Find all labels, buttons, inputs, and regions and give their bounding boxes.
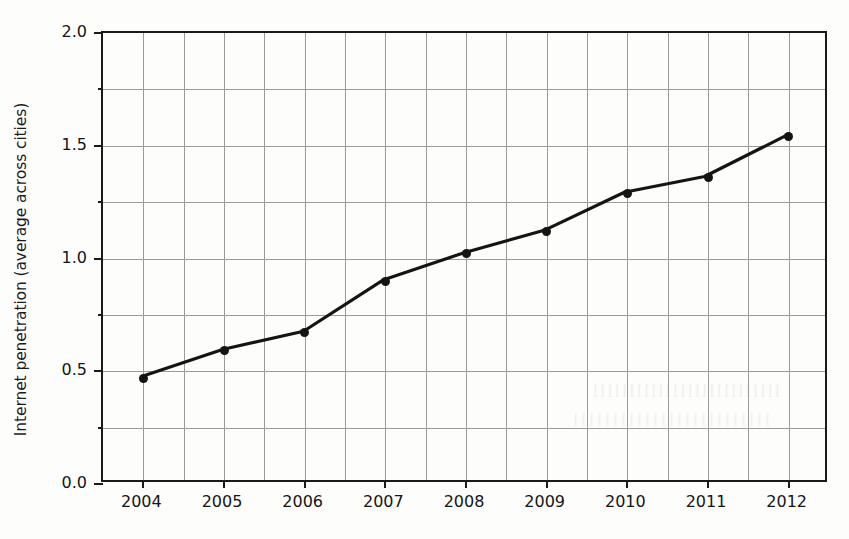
- x-tick-label: 2007: [348, 492, 418, 511]
- data-point-marker: [623, 189, 632, 198]
- y-tick-mark: [94, 145, 103, 147]
- y-axis-title: Internet penetration (average across cit…: [0, 0, 46, 539]
- y-axis-title-label: Internet penetration (average across cit…: [12, 103, 34, 436]
- data-point-marker: [462, 249, 471, 258]
- y-tick-mark: [94, 32, 103, 34]
- x-tick-label: 2009: [510, 492, 580, 511]
- x-tick-label: 2010: [590, 492, 660, 511]
- x-tick-label: 2005: [187, 492, 257, 511]
- y-tick-mark: [94, 258, 103, 260]
- y-tick-label: 0.5: [41, 360, 87, 379]
- y-tick-label: 0.0: [41, 473, 87, 492]
- y-tick-label: 2.0: [41, 22, 87, 41]
- x-tick-label: 2012: [752, 492, 822, 511]
- x-tick-label: 2006: [268, 492, 338, 511]
- data-point-marker: [139, 374, 148, 383]
- x-tick-label: 2011: [671, 492, 741, 511]
- y-tick-label: 1.5: [41, 134, 87, 153]
- y-tick-mark: [94, 483, 103, 485]
- data-point-marker: [704, 173, 713, 182]
- plot-area: [101, 31, 827, 482]
- y-tick-label: 1.0: [41, 247, 87, 266]
- y-tick-mark: [94, 370, 103, 372]
- chart-page: llllllllllllllllllllllllll lllllllllllll…: [0, 0, 849, 539]
- data-point-marker: [220, 346, 229, 355]
- x-tick-label: 2004: [106, 492, 176, 511]
- x-tick-label: 2008: [429, 492, 499, 511]
- data-point-marker: [381, 277, 390, 286]
